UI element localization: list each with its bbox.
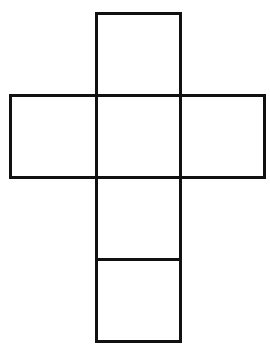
cube-net-diagram (0, 0, 270, 354)
net-square-lower (95, 176, 182, 261)
net-square-top (95, 12, 182, 97)
net-square-middle-right (179, 94, 266, 179)
net-square-middle-left (9, 94, 98, 179)
net-square-middle-center (95, 94, 182, 179)
net-square-bottom (95, 258, 182, 343)
